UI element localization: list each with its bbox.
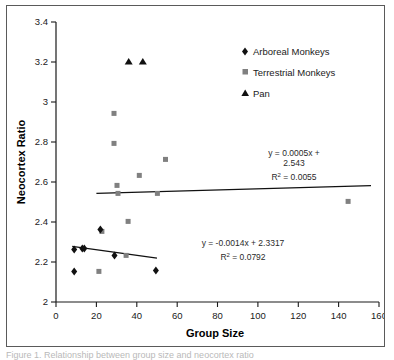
y-tick-label: 2.4 xyxy=(35,216,48,227)
data-point xyxy=(163,157,168,162)
y-axis-tick-labels: 2 2.2 2.4 2.6 2.8 3 3.2 3.4 xyxy=(35,16,48,307)
data-point xyxy=(96,269,101,274)
series-arboreal-monkeys xyxy=(71,226,159,276)
data-point xyxy=(137,173,142,178)
y-axis-title: Neocortex Ratio xyxy=(15,120,27,205)
data-point xyxy=(155,191,160,196)
chart-legend: Arboreal Monkeys Terrestrial Monkeys Pan xyxy=(241,46,335,99)
data-point xyxy=(153,267,159,275)
data-point xyxy=(126,219,131,224)
data-point xyxy=(116,191,121,196)
x-axis-tick-labels: 0 20 40 60 80 100 120 140 160 xyxy=(53,310,384,321)
chart-frame: 2 2.2 2.4 2.6 2.8 3 3.2 3.4 xyxy=(6,5,385,347)
x-tick-label: 40 xyxy=(132,310,143,321)
data-point xyxy=(125,58,133,65)
arboreal-equation-annotation: y = -0.0014x + 2.3317 R2 = 0.0792 xyxy=(202,238,285,262)
x-tick-label: 160 xyxy=(371,310,384,321)
arboreal-equation-line1: y = -0.0014x + 2.3317 xyxy=(202,238,285,248)
legend-marker-terrestrial-square xyxy=(243,69,249,75)
x-tick-label: 20 xyxy=(91,310,102,321)
y-tick-label: 3 xyxy=(43,96,48,107)
y-tick-label: 3.4 xyxy=(35,16,48,27)
data-point xyxy=(346,199,351,204)
terrestrial-r2-value: = 0.0055 xyxy=(281,172,317,182)
terrestrial-equation-annotation: y = 0.0005x + 2.543 R2 = 0.0055 xyxy=(268,148,320,182)
y-tick-label: 3.2 xyxy=(35,56,48,67)
arboreal-r2-value: = 0.0792 xyxy=(230,252,266,262)
x-axis-ticks xyxy=(56,302,379,307)
terrestrial-trendline xyxy=(96,186,371,194)
x-tick-label: 100 xyxy=(250,310,266,321)
legend-marker-pan-triangle xyxy=(241,90,249,97)
x-axis-title: Group Size xyxy=(186,327,244,339)
y-axis-ticks xyxy=(51,22,56,302)
terrestrial-r2: R2 = 0.0055 xyxy=(271,172,316,182)
terrestrial-equation-line2: 2.543 xyxy=(283,158,305,168)
x-tick-label: 120 xyxy=(290,310,306,321)
y-tick-label: 2.6 xyxy=(35,176,48,187)
arboreal-r2: R2 = 0.0792 xyxy=(220,252,265,262)
figure-caption: Figure 1. Relationship between group siz… xyxy=(6,350,385,360)
terrestrial-equation-line1: y = 0.0005x + xyxy=(268,148,320,158)
legend-label-terrestrial: Terrestrial Monkeys xyxy=(253,67,336,78)
data-point xyxy=(124,253,129,258)
data-point xyxy=(71,268,77,276)
data-point xyxy=(112,111,117,116)
series-pan xyxy=(125,58,147,65)
data-point xyxy=(112,141,117,146)
figure-container: 2 2.2 2.4 2.6 2.8 3 3.2 3.4 xyxy=(0,0,394,360)
data-point xyxy=(139,58,147,65)
x-tick-label: 0 xyxy=(53,310,58,321)
legend-label-arboreal: Arboreal Monkeys xyxy=(253,46,330,57)
x-tick-label: 80 xyxy=(212,310,223,321)
legend-label-pan: Pan xyxy=(253,88,270,99)
data-point xyxy=(115,183,120,188)
y-tick-label: 2.2 xyxy=(35,256,48,267)
legend-marker-arboreal-diamond xyxy=(242,48,248,56)
y-tick-label: 2 xyxy=(43,296,48,307)
y-tick-label: 2.8 xyxy=(35,136,48,147)
scatter-plot: 2 2.2 2.4 2.6 2.8 3 3.2 3.4 xyxy=(7,6,384,346)
x-tick-label: 60 xyxy=(172,310,183,321)
x-tick-label: 140 xyxy=(331,310,347,321)
